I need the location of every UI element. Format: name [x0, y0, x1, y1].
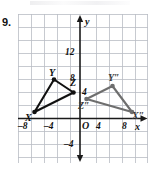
x-tick-4: 4: [96, 122, 101, 132]
vertex-label-y-double-prime: Y″: [108, 73, 120, 83]
vertex-label-x: X: [25, 113, 32, 123]
x-tick-minus-8: –8: [18, 122, 28, 132]
vertex-label-z-double-prime: Z″: [78, 101, 90, 111]
x-tick-8: 8: [122, 122, 127, 132]
vertex-label-y: Y: [49, 68, 55, 78]
coordinate-plane: 12 8 4 –4 –8 –4 4 8 O y x X Y Z Z″ Y″ X″: [18, 14, 148, 163]
x-tick-minus-4: –4: [44, 122, 54, 132]
problem-number: 9.: [2, 16, 11, 28]
figure-root: 9.: [0, 0, 160, 170]
y-axis-letter: y: [85, 17, 89, 27]
y-tick-4: 4: [82, 88, 87, 98]
triangle-xyz-double-prime: [84, 84, 134, 115]
origin-label: O: [82, 121, 89, 131]
y-tick-minus-4: –4: [64, 140, 74, 150]
vertex-label-x-double-prime: X″: [132, 111, 144, 121]
vertex-label-z: Z: [70, 78, 76, 88]
x-axis-letter: x: [135, 122, 140, 132]
y-tick-12: 12: [65, 48, 75, 58]
scan-artifact: [30, 1, 130, 5]
